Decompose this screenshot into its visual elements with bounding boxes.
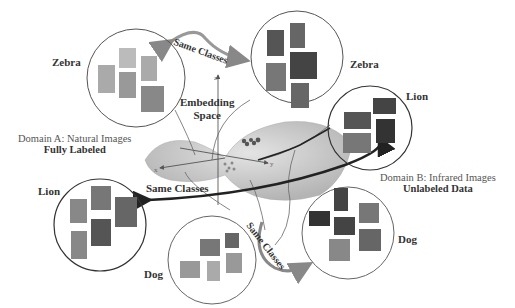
cluster-label-zebra-infrared: Zebra (350, 58, 379, 70)
domain-b-subtitle: Unlabeled Data (380, 183, 496, 194)
cluster-label-zebra-natural: Zebra (52, 56, 81, 68)
thumbnails-lion-natural (70, 186, 137, 259)
cluster-label-lion-infrared: Lion (406, 90, 428, 102)
axis-y-label: y (270, 160, 274, 168)
cluster-circle-dog-natural (168, 216, 256, 304)
thumbnails-dog-natural (180, 233, 242, 281)
domain-b-caption: Domain B: Infrared Images Unlabeled Data (380, 172, 496, 194)
axis-z-label: z (214, 74, 217, 82)
domain-a-caption: Domain A: Natural Images Fully Labeled (18, 133, 131, 155)
embedding-space-label: Embedding Space (180, 96, 234, 122)
thumbnails-lion-infrared (343, 98, 396, 153)
cluster-label-dog-natural: Dog (144, 268, 163, 280)
axis-x-label: x (154, 166, 158, 174)
thumbnails-zebra-infrared (266, 23, 317, 108)
cluster-label-lion-natural: Lion (38, 185, 60, 197)
thumbnails-dog-infrared (309, 188, 381, 261)
same-classes-label-lion: Same Classes (146, 182, 209, 194)
thumbnails-zebra-natural (98, 48, 164, 112)
domain-b-title: Domain B: Infrared Images (380, 172, 496, 183)
domain-a-title: Domain A: Natural Images (18, 133, 131, 144)
embedding-label-line1: Embedding (180, 96, 234, 109)
embedding-label-line2: Space (180, 109, 234, 122)
domain-a-subtitle: Fully Labeled (18, 144, 131, 155)
cluster-label-dog-infrared: Dog (398, 233, 417, 245)
